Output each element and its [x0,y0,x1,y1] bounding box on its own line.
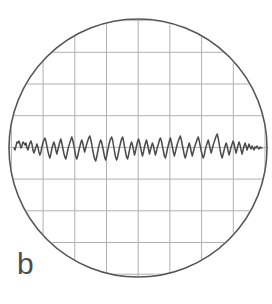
oscilloscope-figure: b [0,0,272,304]
oscilloscope-screen [0,0,272,304]
panel-label-b: b [17,248,34,280]
